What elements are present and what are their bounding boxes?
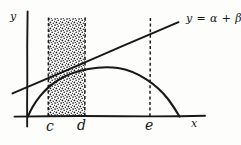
x-tick-label-c: c [46,119,54,133]
y-axis-label: y [10,11,16,22]
hand-drawn-graph-figure: y x c d e y = α + βx [0,0,241,145]
shaded-region-c-to-d [49,18,86,116]
x-tick-label-e: e [145,118,153,132]
dashed-vertical-e [150,18,151,117]
x-tick-label-d: d [77,118,86,132]
regression-line [13,22,179,93]
x-axis [15,116,206,117]
line-equation-label: y = α + βx [186,13,241,24]
x-axis-label: x [191,118,197,129]
